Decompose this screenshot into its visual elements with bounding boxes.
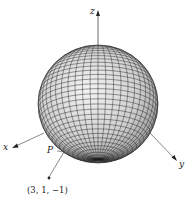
z-axis — [96, 10, 100, 46]
sphere-diagram — [0, 0, 185, 199]
y-axis — [150, 133, 177, 161]
external-point-label: (3, 1, −1) — [27, 186, 68, 195]
external-point-dot — [48, 177, 51, 180]
y-axis-label: y — [179, 160, 184, 169]
x-axis — [12, 133, 44, 148]
point-p-label: P — [47, 146, 53, 155]
x-axis-label: x — [3, 143, 8, 152]
z-axis-label: z — [90, 7, 95, 16]
sphere — [38, 45, 158, 163]
point-p-connector — [48, 151, 64, 179]
